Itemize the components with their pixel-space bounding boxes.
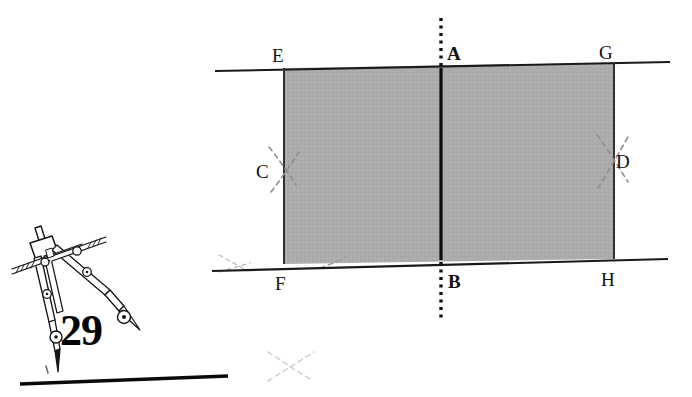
- compass-right-leg-lower: [105, 290, 124, 311]
- compass-left-wheel-dot: [54, 335, 58, 339]
- compass-right-joint-dot: [86, 271, 89, 274]
- point-label-b: B: [448, 272, 461, 291]
- rectangle-efhg-shaded: [284, 63, 614, 264]
- point-label-g: G: [599, 43, 613, 62]
- arc-cross-bottom: [268, 352, 314, 381]
- compass-screw: [46, 248, 54, 258]
- compass-left-pivot-dot: [46, 293, 49, 296]
- compass-right-wheel-dot: [122, 315, 126, 319]
- baseline-tick: [46, 366, 48, 373]
- point-label-f: F: [275, 274, 286, 293]
- point-label-c: C: [256, 162, 269, 181]
- point-label-d: D: [616, 152, 630, 171]
- baseline-rule: [20, 376, 228, 384]
- point-label-a: A: [447, 44, 461, 63]
- compass-crossbar-nut: [41, 258, 49, 266]
- compass-upper-rod-nut: [73, 247, 81, 255]
- point-label-h: H: [601, 270, 615, 289]
- construction-diagram: [0, 0, 692, 397]
- figure-canvas: E A G C D F B H 29: [0, 0, 692, 397]
- figure-number-label: 29: [60, 309, 102, 353]
- point-label-e: E: [272, 46, 284, 65]
